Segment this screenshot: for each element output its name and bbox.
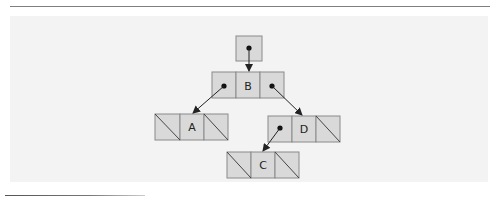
tree-diagram: B A D C bbox=[0, 0, 498, 203]
node-label: A bbox=[188, 121, 196, 134]
node-label: D bbox=[300, 123, 308, 136]
bottom-rule bbox=[5, 195, 145, 196]
edge-b-d bbox=[272, 86, 302, 115]
edge-b-a bbox=[193, 86, 224, 113]
node-label: C bbox=[259, 159, 267, 172]
node-label: B bbox=[244, 80, 252, 93]
node-c: C bbox=[227, 152, 299, 178]
node-a: A bbox=[155, 114, 228, 140]
node-b: B bbox=[212, 72, 284, 98]
